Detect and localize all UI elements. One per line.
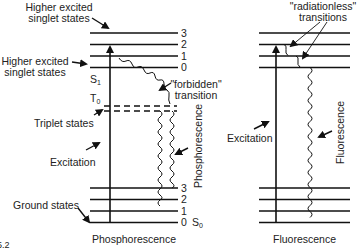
pointer-higher-excited-mid xyxy=(72,62,86,64)
right-fluorescence-wavy xyxy=(308,68,312,218)
lower-level-0: 0 xyxy=(181,217,187,228)
label-phosphorescence-vertical: Phosphorescence xyxy=(192,104,204,188)
caption-fragment: 15.2 xyxy=(0,240,10,248)
upper-level-0: 0 xyxy=(181,62,187,73)
label-s0: S0 xyxy=(192,217,203,231)
left-phosphorescence-wavy-1 xyxy=(158,111,162,206)
label-excitation-right: Excitation xyxy=(227,133,273,144)
pointer-radiationless-1 xyxy=(291,22,320,46)
label-ground-states: Ground states xyxy=(13,200,79,211)
label-fluorescence-vertical: Fluorescence xyxy=(334,101,346,164)
pointer-radiationless-2 xyxy=(303,22,327,58)
pointer-phosphorescence xyxy=(176,148,188,154)
label-t0: T0 xyxy=(90,93,100,107)
label-excitation-left: Excitation xyxy=(50,157,96,168)
label-forbidden-transition: "forbidden" transition xyxy=(166,79,226,101)
label-s1: S1 xyxy=(90,74,101,88)
lower-level-2: 2 xyxy=(181,194,187,205)
left-isc-wavy xyxy=(119,58,170,104)
label-higher-excited-top: Higher excited singlet states xyxy=(24,2,94,24)
left-panel-title: Phosphorescence xyxy=(90,234,178,245)
label-higher-excited-mid: Higher excited singlet states xyxy=(0,56,70,78)
pointer-excitation-left xyxy=(86,143,99,150)
pointer-fluorescence xyxy=(319,131,332,137)
left-phosphorescence-wavy-2 xyxy=(170,111,174,188)
right-radiationless-wavy-2 xyxy=(296,56,300,67)
pointer-ground xyxy=(78,208,89,222)
pointer-triplet xyxy=(94,110,102,115)
pointer-excitation-right xyxy=(254,122,268,129)
right-radiationless-wavy-1 xyxy=(284,45,288,56)
label-triplet-states: Triplet states xyxy=(34,118,94,129)
upper-level-2: 2 xyxy=(181,39,187,50)
label-radiationless-transitions: "radiationless" transitions xyxy=(288,1,358,23)
pointer-higher-excited-top xyxy=(92,18,108,28)
right-panel-title: Fluorescence xyxy=(259,234,350,245)
